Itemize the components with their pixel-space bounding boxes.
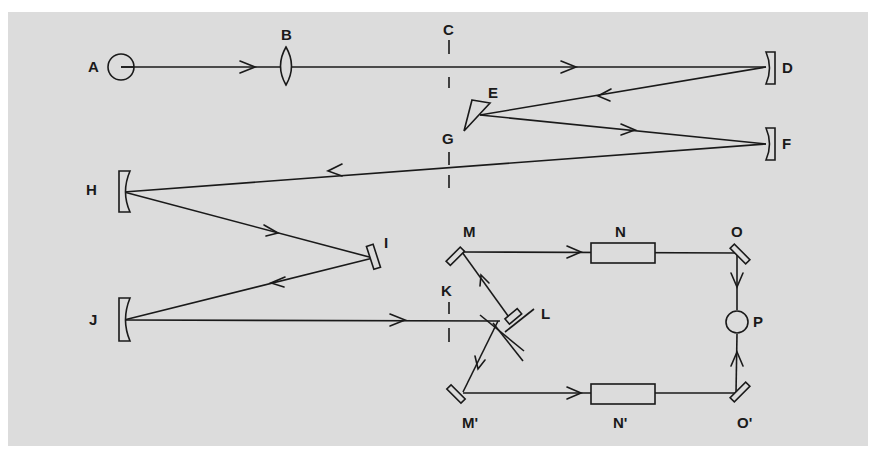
beam-rays: [121, 67, 766, 393]
label-b: B: [281, 26, 292, 43]
label-m: M: [463, 223, 476, 240]
label-i: I: [384, 234, 388, 251]
ray-l-to-m-prime: [463, 321, 498, 392]
mirror-m-prime: [447, 385, 465, 403]
cell-n-prime: [591, 384, 655, 404]
label-m-prime: M': [462, 414, 478, 431]
ray-d-to-e: [480, 67, 766, 115]
label-g: G: [442, 130, 454, 147]
label-n: N: [615, 223, 626, 240]
label-a: A: [88, 58, 99, 75]
ray-o-prime-to-p: [736, 334, 737, 393]
mirror-m: [446, 247, 464, 265]
mirror-o: [730, 244, 750, 264]
mirror-o-prime: [730, 382, 750, 402]
component-labels: A B C D E F G H I J K L M N O P M' N' O': [86, 21, 793, 431]
label-p: P: [753, 313, 763, 330]
label-c: C: [443, 21, 454, 38]
label-l: L: [541, 305, 550, 322]
label-n-prime: N': [613, 414, 627, 431]
ray-i-to-j: [124, 258, 373, 320]
label-j: J: [89, 311, 97, 328]
beam-splitter-l: [480, 309, 534, 361]
optical-diagram: A B C D E F G H I J K L M N O P M' N' O': [0, 0, 882, 459]
ray-h-to-i: [124, 192, 373, 258]
label-h: H: [86, 181, 97, 198]
ray-f-to-h: [124, 144, 766, 192]
ray-j-to-l: [124, 320, 500, 321]
arrow-icon: [598, 89, 611, 101]
mirror-d: [766, 52, 775, 84]
cell-n: [591, 243, 655, 263]
detector-p: [726, 311, 748, 333]
label-k: K: [441, 282, 452, 299]
mirror-f: [766, 128, 775, 160]
label-o: O: [731, 223, 743, 240]
lens-b: [281, 47, 292, 85]
label-d: D: [782, 59, 793, 76]
ray-e-to-f: [480, 115, 766, 144]
label-e: E: [488, 84, 498, 101]
arrowheads: [240, 61, 743, 399]
ray-l-to-m: [462, 252, 511, 320]
label-f: F: [782, 135, 791, 152]
arrow-icon: [328, 164, 342, 176]
label-o-prime: O': [737, 414, 752, 431]
